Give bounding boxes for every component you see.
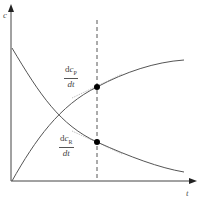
x-axis-label: t: [186, 188, 189, 198]
x-axis-arrow-icon: [189, 178, 197, 184]
y-axis-arrow-icon: [8, 4, 14, 12]
reactant-point: [94, 139, 100, 145]
reactant-curve: [12, 48, 184, 172]
product-curve: [12, 60, 184, 181]
reactant-rate-label: dcR dt: [59, 133, 74, 158]
kinetics-chart: [0, 0, 207, 201]
product-point: [94, 84, 100, 90]
y-axis-label: c: [3, 10, 7, 20]
product-rate-label: dcP dt: [64, 64, 78, 89]
